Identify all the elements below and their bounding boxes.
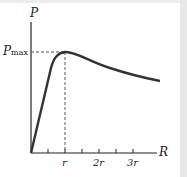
pmax-main: P <box>3 44 11 58</box>
tick-label-r: r <box>62 158 67 168</box>
tick-label-3r: 3r <box>127 158 138 168</box>
pmax-label: Pmax <box>3 45 28 57</box>
power-curve <box>31 52 160 153</box>
pmax-subscript: max <box>11 48 28 57</box>
x-axis-label: R <box>159 146 168 158</box>
tick-label-2r: 2r <box>93 158 104 168</box>
y-axis-label: P <box>30 7 38 19</box>
